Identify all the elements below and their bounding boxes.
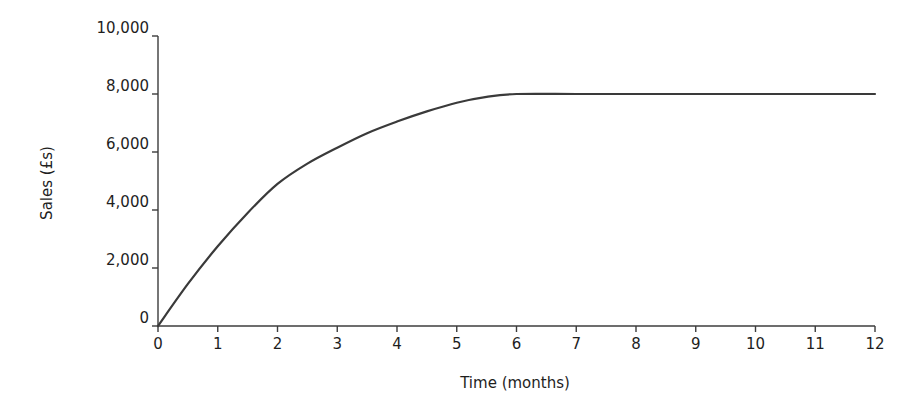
- y-tick-label: 10,000: [97, 19, 150, 37]
- y-tick-label: 2,000: [106, 251, 149, 269]
- x-tick-label: 11: [806, 335, 825, 353]
- y-tick-label: 4,000: [106, 193, 149, 211]
- x-tick-label: 3: [332, 335, 342, 353]
- y-axis-title: Sales (£s): [38, 146, 56, 220]
- y-tick-label: 0: [139, 309, 149, 327]
- x-tick-label: 6: [512, 335, 522, 353]
- x-tick-label: 7: [571, 335, 581, 353]
- x-tick-label: 5: [452, 335, 462, 353]
- x-tick-label: 2: [273, 335, 283, 353]
- plot-area: [158, 94, 875, 326]
- y-axis: 02,0004,0006,0008,00010,000: [97, 19, 159, 327]
- x-axis-title: Time (months): [459, 374, 570, 392]
- y-tick-label: 6,000: [106, 135, 149, 153]
- x-tick-label: 0: [153, 335, 163, 353]
- x-tick-label: 1: [213, 335, 223, 353]
- x-tick-label: 12: [865, 335, 884, 353]
- x-tick-label: 10: [746, 335, 765, 353]
- sales-growth-chart: 02,0004,0006,0008,00010,000 012345678910…: [0, 0, 912, 415]
- sales-line: [158, 94, 875, 326]
- x-tick-label: 9: [691, 335, 701, 353]
- x-tick-label: 8: [631, 335, 641, 353]
- x-axis: 0123456789101112: [153, 326, 884, 353]
- y-tick-label: 8,000: [106, 77, 149, 95]
- x-tick-label: 4: [392, 335, 402, 353]
